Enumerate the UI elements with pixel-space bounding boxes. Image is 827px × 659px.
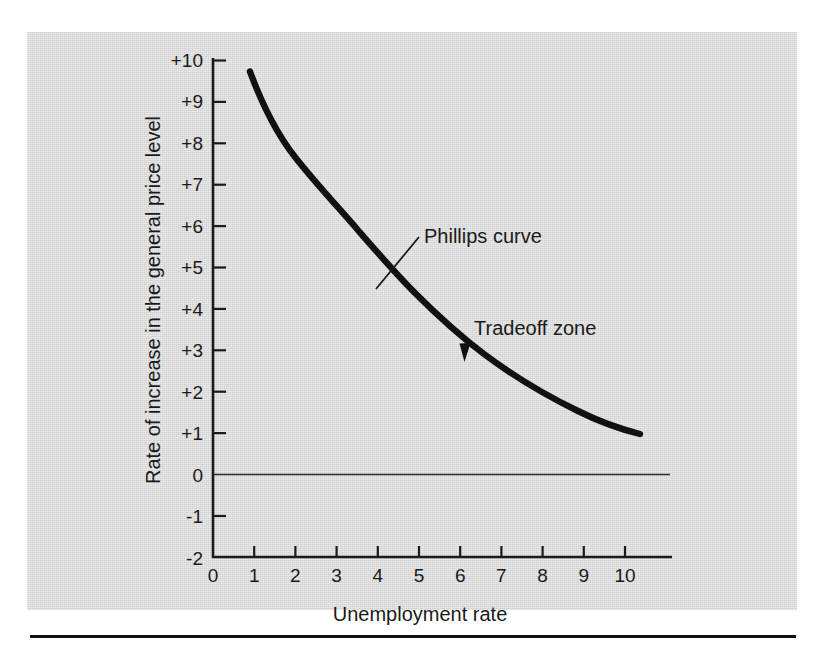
figure-panel bbox=[27, 32, 797, 610]
bottom-divider-rule bbox=[30, 635, 796, 638]
